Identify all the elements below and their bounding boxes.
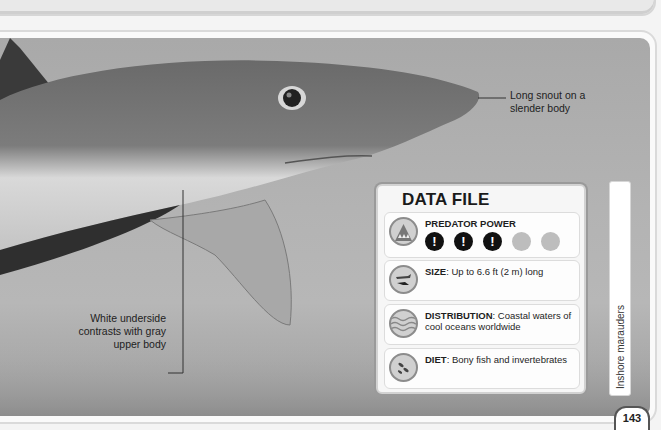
- power-dot-filled: !: [454, 232, 473, 251]
- previous-page-panel: [0, 0, 656, 16]
- snout-callout: Long snout on a slender body: [510, 89, 610, 115]
- shark-jaws-icon: [389, 217, 418, 246]
- size-comparison-icon: [389, 265, 418, 294]
- distribution-row: DISTRIBUTION: Coastal waters of cool oce…: [384, 304, 580, 345]
- predator-power-rating: ! ! !: [425, 232, 560, 251]
- underside-callout: White underside contrasts with gray uppe…: [60, 312, 166, 351]
- data-file-title: DATA FILE: [402, 190, 489, 210]
- waves-icon: [389, 309, 418, 338]
- section-tab-label: Inshore marauders: [615, 305, 626, 389]
- size-row: SIZE: Up to 6.6 ft (2 m) long: [384, 260, 580, 301]
- power-dot-filled: !: [483, 232, 502, 251]
- size-text: SIZE: Up to 6.6 ft (2 m) long: [425, 266, 575, 277]
- predator-power-row: PREDATOR POWER ! ! !: [384, 212, 580, 258]
- power-dot-empty: [512, 232, 531, 251]
- diet-row: DIET: Bony fish and invertebrates: [384, 348, 580, 389]
- predator-power-label: PREDATOR POWER: [425, 218, 575, 229]
- fish-icon: [389, 353, 418, 382]
- distribution-text: DISTRIBUTION: Coastal waters of cool oce…: [425, 310, 575, 332]
- section-tab: Inshore marauders: [609, 181, 631, 396]
- power-dot-filled: !: [425, 232, 444, 251]
- power-dot-empty: [541, 232, 560, 251]
- page-number: 143: [614, 406, 650, 430]
- data-file-panel: DATA FILE PREDATOR POWER ! ! ! SIZE: Up …: [376, 184, 586, 394]
- diet-text: DIET: Bony fish and invertebrates: [425, 354, 575, 365]
